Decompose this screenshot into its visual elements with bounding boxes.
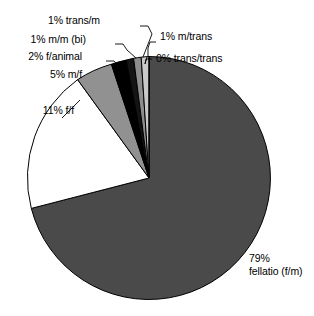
leader-line-trans-m bbox=[140, 26, 152, 57]
pie-label-m-trans: 1% m/trans bbox=[160, 30, 212, 43]
pie-label-f-animal: 2% f/animal bbox=[0, 50, 82, 63]
pie-label-trans-trans: 0% trans/trans bbox=[156, 52, 222, 65]
pie-label-f-f: 11% f/f bbox=[0, 104, 74, 117]
pie-label-fellatio-percent: 79% bbox=[249, 252, 270, 264]
pie-label-trans-m: 1% trans/m bbox=[0, 14, 100, 27]
pie-label-fellatio-name: fellatio (f/m) bbox=[249, 265, 302, 277]
pie-label-m-m-bi: 1% m/m (bi) bbox=[0, 33, 86, 46]
leader-line-m-trans bbox=[148, 42, 156, 57]
pie-label-m-f: 5% m/f bbox=[0, 68, 82, 81]
leader-line-m-m-bi bbox=[115, 44, 136, 58]
pie-label-fellatio-f-m: 79% fellatio (f/m) bbox=[249, 252, 314, 277]
pie-chart: 1% trans/m 1% m/m (bi) 2% f/animal 5% m/… bbox=[0, 0, 314, 316]
